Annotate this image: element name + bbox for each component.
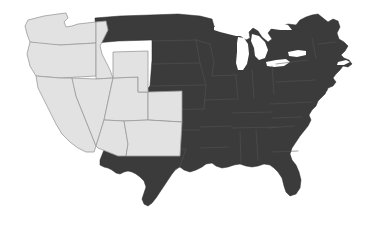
region-colorado bbox=[148, 91, 182, 122]
region-new-mexico bbox=[124, 120, 182, 156]
us-map-figure bbox=[0, 0, 373, 235]
figure-caption bbox=[4, 224, 108, 233]
us-map-svg bbox=[0, 0, 373, 235]
region-oregon bbox=[27, 42, 96, 78]
